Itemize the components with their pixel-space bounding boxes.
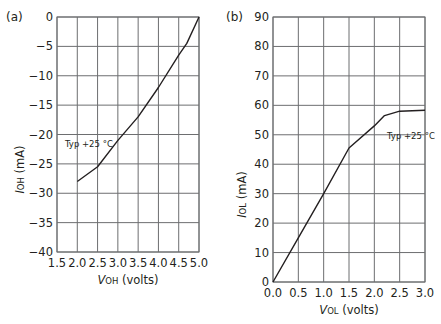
x-tick-label: 3.0 (109, 256, 127, 270)
panel-label: (a) (6, 10, 23, 24)
y-axis-title: IOH (mA) (13, 145, 27, 193)
y-tick-label: 70 (254, 69, 269, 83)
grid-lines (57, 17, 199, 252)
x-tick-label: 2.0 (68, 256, 86, 270)
y-tick-label: 90 (254, 10, 269, 24)
y-tick-label: 30 (254, 187, 269, 201)
x-tick-label: 3.5 (129, 256, 147, 270)
x-tick-label: 0.5 (289, 286, 307, 300)
x-tick-label: 4.0 (149, 256, 167, 270)
x-tick-label: 2.5 (88, 256, 106, 270)
y-tick-label: 0 (262, 275, 269, 289)
y-tick-label: 20 (254, 216, 269, 230)
y-tick-label: −40 (29, 245, 53, 259)
y-tick-label: −35 (29, 216, 53, 230)
x-tick-label: 4.5 (170, 256, 188, 270)
y-tick-label: 0 (46, 10, 53, 24)
x-tick-label: 2.5 (391, 286, 409, 300)
x-tick-label: 5.0 (190, 256, 208, 270)
x-tick-label: 2.0 (365, 286, 383, 300)
x-tick-label: 1.0 (315, 286, 333, 300)
y-tick-label: 50 (254, 128, 269, 142)
chart-canvas: 1.52.02.53.03.54.04.55.00−5−10−15−20−25−… (0, 0, 441, 324)
temperature-annotation: Typ +25 °C (386, 131, 435, 141)
y-axis-title: IOL (mA) (235, 171, 249, 218)
x-tick-label: 1.5 (340, 286, 358, 300)
y-tick-label: −25 (29, 157, 53, 171)
y-tick-label: −5 (36, 39, 53, 53)
y-tick-label: −30 (29, 186, 53, 200)
y-tick-label: 40 (254, 157, 269, 171)
chart-b-iol-vs-vol: 0.00.51.01.52.02.53.09080706050403020100… (226, 10, 435, 317)
x-tick-label: 3.0 (416, 286, 434, 300)
y-tick-label: −15 (29, 98, 53, 112)
chart-a-ioh-vs-voh: 1.52.02.53.03.54.04.55.00−5−10−15−20−25−… (6, 10, 208, 287)
x-axis-title: VOH (volts) (97, 273, 158, 287)
y-tick-label: −10 (29, 69, 53, 83)
y-tick-label: 80 (254, 39, 269, 53)
y-tick-label: 60 (254, 98, 269, 112)
x-axis-title: VOL (volts) (319, 303, 378, 317)
temperature-annotation: Typ +25 °C (64, 139, 113, 149)
y-tick-label: −20 (29, 128, 53, 142)
y-tick-label: 10 (254, 246, 269, 260)
panel-label: (b) (226, 10, 243, 24)
